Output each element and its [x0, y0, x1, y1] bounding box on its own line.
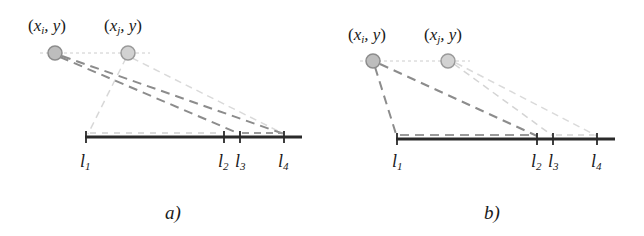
tick-label-l3: l3	[235, 151, 246, 172]
dark-dash-xi-l3	[60, 57, 240, 134]
dark-dash-xi-l4	[62, 56, 284, 134]
panel-a: (xi, y) (xj, y) l1 l2 l3 l4 a)	[28, 16, 302, 224]
point-xi	[366, 54, 380, 68]
light-dash-xj-l1	[88, 58, 126, 134]
tick-label-l2: l2	[531, 151, 542, 172]
point-label-xj: (xj, y)	[104, 16, 142, 36]
panel-b: (xi, y) (xj, y) l1 l2 l3 l4 b)	[348, 25, 615, 224]
light-dash-xj-l3	[454, 64, 553, 136]
panel-caption-a: a)	[165, 202, 181, 224]
light-dash-xj-l4	[132, 58, 284, 134]
light-dash-xj-l4	[456, 63, 597, 136]
point-xj	[441, 54, 455, 68]
point-label-xj: (xj, y)	[424, 25, 462, 45]
diagram-canvas: (xi, y) (xj, y) l1 l2 l3 l4 a)	[0, 0, 644, 236]
dark-dash-xi-l1	[375, 67, 396, 134]
point-xj	[121, 46, 135, 60]
point-label-xi: (xi, y)	[348, 25, 386, 45]
point-label-xi: (xi, y)	[28, 16, 66, 36]
tick-label-l4: l4	[278, 151, 289, 172]
dark-dash-xi-l2	[380, 64, 537, 136]
tick-label-l1: l1	[392, 151, 403, 172]
tick-label-l3: l3	[548, 151, 559, 172]
tick-label-l2: l2	[218, 151, 229, 172]
point-xi	[48, 46, 62, 60]
panel-caption-b: b)	[484, 202, 500, 224]
tick-label-l4: l4	[591, 151, 602, 172]
tick-label-l1: l1	[80, 151, 91, 172]
